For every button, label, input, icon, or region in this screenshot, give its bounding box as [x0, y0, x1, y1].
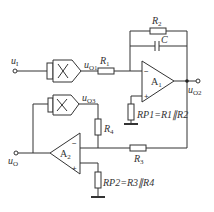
svg-text:R1: R1	[99, 55, 110, 68]
svg-text:+: +	[72, 164, 77, 173]
label-uo1: uO1	[84, 59, 98, 72]
resistor-rp1: RP1=R1∥R2	[128, 104, 188, 121]
label-uo3: uO3	[82, 92, 96, 105]
multiplier-1	[47, 60, 81, 82]
svg-text:C: C	[161, 34, 168, 45]
resistor-r1: R1	[98, 55, 114, 74]
label-uo: uO	[8, 155, 18, 168]
circuit-diagram: uI uO1 R1 R2 C − + A1 uO2	[0, 0, 214, 212]
op-amp-a1: − + A1	[142, 61, 174, 102]
output-terminal-uo	[14, 151, 18, 155]
input-terminal-ui: uI	[11, 55, 47, 73]
svg-text:−: −	[144, 67, 149, 76]
svg-text:+: +	[144, 92, 149, 101]
resistor-rp2: RP2=R3∥R4	[95, 172, 154, 189]
junction-node	[185, 79, 189, 83]
multiplier-2	[48, 95, 79, 115]
svg-text:RP2=R3∥R4: RP2=R3∥R4	[102, 177, 154, 189]
capacitor-c: C	[155, 34, 168, 51]
svg-text:RP1=R1∥R2: RP1=R1∥R2	[136, 109, 188, 121]
svg-text:R3: R3	[133, 153, 144, 166]
svg-text:−: −	[72, 139, 77, 148]
label-uo2: uO2	[188, 84, 202, 97]
svg-text:uI: uI	[11, 55, 19, 68]
resistor-r2: R2	[150, 15, 166, 34]
output-terminal-uo2	[196, 79, 200, 83]
svg-text:R2: R2	[151, 15, 162, 28]
resistor-r4: R4	[95, 119, 114, 136]
svg-text:R4: R4	[103, 123, 114, 136]
op-amp-a2: − + A2	[50, 133, 80, 174]
resistor-r3: R3	[130, 145, 146, 166]
